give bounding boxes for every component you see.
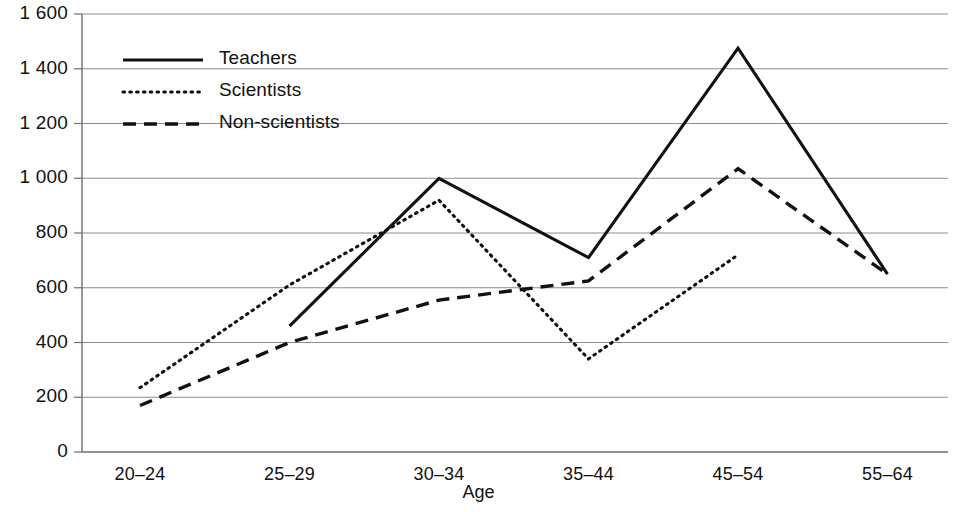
y-axis-tick-label: 200 [36, 385, 68, 407]
y-axis-tick-label: 800 [36, 221, 68, 243]
y-axis-tick-label: 1 000 [19, 166, 68, 188]
line-chart: 02004006008001 0001 2001 4001 60020–2425… [0, 0, 957, 512]
legend-label-scientists: Scientists [219, 79, 301, 101]
legend-label-teachers: Teachers [219, 47, 297, 69]
legend [123, 60, 203, 124]
chart-canvas [0, 0, 957, 512]
y-axis-tick-label: 1 200 [19, 112, 68, 134]
y-axis-tick-label: 400 [36, 331, 68, 353]
y-axis-tick-label: 1 400 [19, 57, 68, 79]
y-axis-tick-label: 0 [57, 440, 68, 462]
y-axis-tick-label: 1 600 [19, 2, 68, 24]
series-line-scientists [140, 200, 738, 388]
legend-label-non-scientists: Non-scientists [219, 111, 340, 133]
gridlines [82, 14, 948, 397]
x-axis-title: Age [0, 482, 957, 503]
y-axis-tick-label: 600 [36, 276, 68, 298]
series-line-non-scientists [140, 169, 888, 406]
series-line-teachers [290, 48, 888, 326]
